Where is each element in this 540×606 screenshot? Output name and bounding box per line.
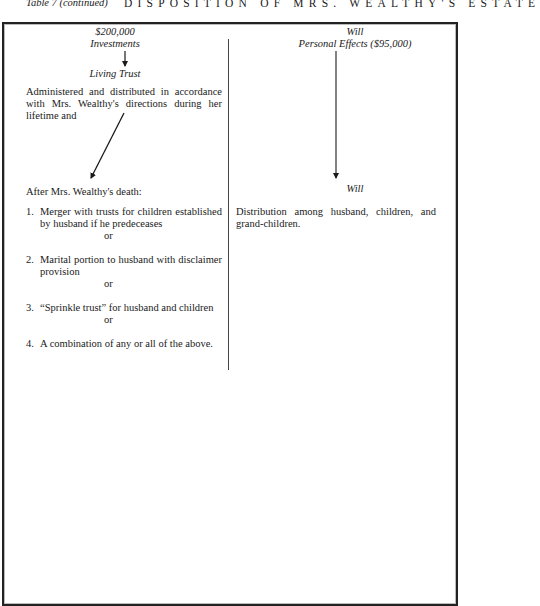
arrow-lifetime-to-death-icon	[91, 113, 124, 178]
